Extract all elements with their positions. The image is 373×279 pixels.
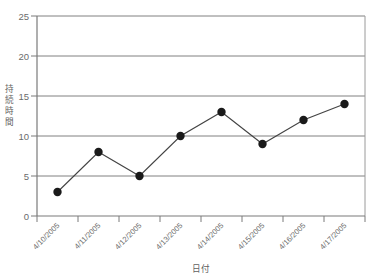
y-axis-title-char-1: 続 [5, 94, 14, 105]
y-tick-label-15: 15 [18, 91, 29, 102]
y-tick-label-5: 5 [24, 171, 29, 182]
y-tick-label-25: 25 [18, 11, 29, 22]
data-point-5 [258, 140, 266, 148]
line-chart: 0 5 10 15 20 25 4/10/2005 4/11/2005 4/12… [0, 0, 373, 279]
data-point-1 [94, 148, 102, 156]
chart-canvas: 0 5 10 15 20 25 4/10/2005 4/11/2005 4/12… [0, 0, 373, 279]
data-point-4 [217, 108, 225, 116]
y-axis-title-char-3: 間 [5, 117, 14, 127]
data-point-0 [53, 188, 61, 196]
y-axis-title-char-2: 時 [5, 106, 14, 116]
y-tick-label-0: 0 [24, 211, 29, 222]
y-axis-title-char-0: 持 [5, 83, 14, 94]
data-point-3 [176, 132, 184, 140]
y-tick-label-20: 20 [18, 51, 29, 62]
data-point-7 [340, 100, 348, 108]
x-axis-title: 日付 [192, 264, 210, 274]
y-tick-label-10: 10 [18, 131, 29, 142]
data-point-2 [135, 172, 143, 180]
chart-background [0, 0, 373, 279]
data-point-6 [299, 116, 307, 124]
